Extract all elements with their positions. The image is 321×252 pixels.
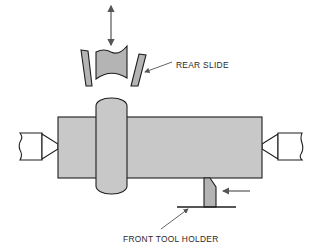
rear-slide-leader	[145, 62, 172, 72]
right-center	[262, 133, 303, 160]
left-center	[19, 133, 58, 160]
rear-slide-center-piece	[96, 46, 127, 79]
rear-slide-label: REAR SLIDE	[176, 60, 229, 70]
collar	[96, 98, 127, 194]
rear-slide-left-piece	[81, 50, 92, 86]
diagram-canvas: REAR SLIDE FRONT TOOL HOLDER	[0, 0, 321, 252]
rear-slide-tools	[81, 46, 146, 86]
workpiece	[58, 117, 262, 178]
front-tool-holder-leader	[161, 209, 188, 229]
rear-slide-right-piece	[131, 54, 146, 86]
front-tool	[177, 178, 236, 207]
front-tool-holder-label: FRONT TOOL HOLDER	[123, 234, 219, 244]
